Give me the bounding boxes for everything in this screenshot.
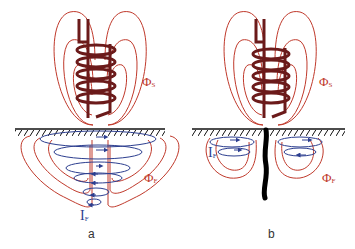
caption-a: a bbox=[88, 228, 95, 240]
eddy-current-diagram bbox=[0, 0, 355, 249]
coil-b bbox=[253, 19, 289, 118]
coil-a bbox=[77, 19, 115, 118]
eddy-current-label-b: IF bbox=[208, 146, 217, 160]
eddy-flux-label-a: ΦF bbox=[144, 171, 157, 185]
source-flux-label-b: ΦS bbox=[319, 75, 332, 89]
eddy-current-label-a: IF bbox=[80, 209, 89, 223]
crack bbox=[264, 130, 266, 198]
source-flux-lines-b bbox=[224, 12, 316, 125]
caption-b: b bbox=[268, 228, 275, 240]
surface-a bbox=[15, 129, 165, 136]
source-flux-label-a: ΦS bbox=[142, 75, 155, 89]
eddy-flux-label-b: ΦF bbox=[322, 171, 335, 185]
